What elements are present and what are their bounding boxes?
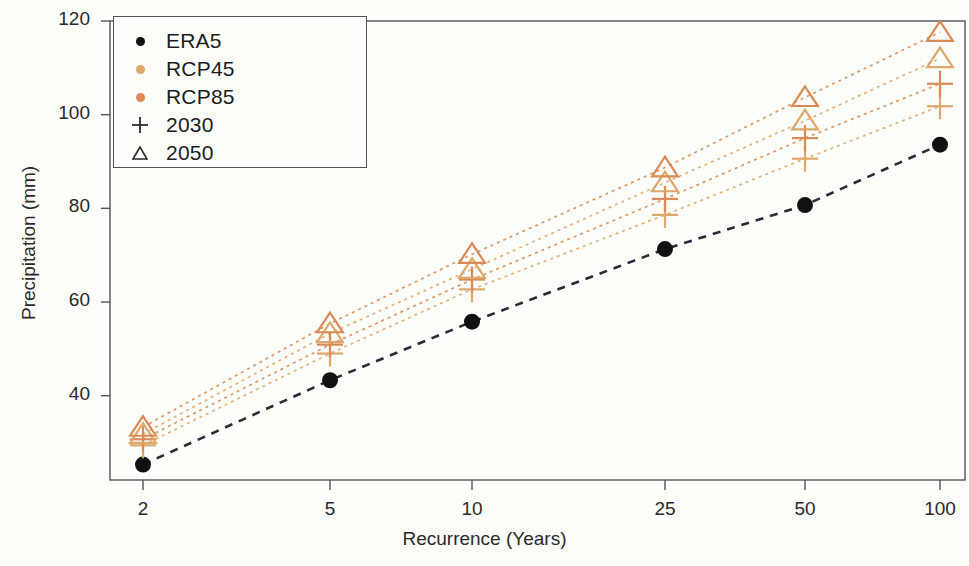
legend-dot-icon (114, 55, 166, 83)
x-tick-label: 50 (775, 498, 835, 520)
data-point-triangle (927, 48, 953, 68)
data-point-plus (927, 93, 953, 119)
legend-label: 2050 (166, 141, 214, 165)
legend-triangle-icon (114, 139, 166, 167)
data-point-triangle (927, 21, 953, 41)
x-tick-label: 100 (910, 498, 969, 520)
data-point-triangle (792, 86, 818, 106)
series-line (143, 145, 940, 465)
legend-label: RCP45 (166, 57, 235, 81)
legend-plus-icon (114, 111, 166, 139)
data-point-dot (135, 457, 151, 473)
legend-item-era5[interactable]: ERA5 (114, 27, 366, 55)
dot-icon (136, 93, 145, 102)
data-point-plus (652, 186, 678, 212)
data-point-dot (932, 137, 948, 153)
y-tick-label: 60 (30, 289, 90, 311)
chart-legend: ERA5RCP45RCP8520302050 (113, 16, 367, 168)
data-point-dot (322, 372, 338, 388)
x-tick-label: 2 (113, 498, 173, 520)
y-tick-label: 40 (30, 383, 90, 405)
legend-label: ERA5 (166, 29, 222, 53)
x-axis-title: Recurrence (Years) (0, 528, 969, 550)
dot-icon (136, 37, 145, 46)
legend-dot-icon (114, 83, 166, 111)
x-tick-label: 10 (442, 498, 502, 520)
data-point-dot (657, 241, 673, 257)
x-tick-label: 25 (635, 498, 695, 520)
legend-item-2050[interactable]: 2050 (114, 139, 366, 167)
y-tick-label: 120 (30, 8, 90, 30)
legend-dot-icon (114, 27, 166, 55)
legend-item-rcp45[interactable]: RCP45 (114, 55, 366, 83)
legend-item-rcp85[interactable]: RCP85 (114, 83, 366, 111)
legend-item-2030[interactable]: 2030 (114, 111, 366, 139)
data-point-plus (927, 71, 953, 97)
legend-label: RCP85 (166, 85, 235, 109)
legend-label: 2030 (166, 113, 214, 137)
y-tick-label: 80 (30, 195, 90, 217)
triangle-icon (130, 143, 150, 163)
y-tick-label: 100 (30, 102, 90, 124)
data-point-dot (464, 314, 480, 330)
x-tick-label: 5 (300, 498, 360, 520)
dot-icon (136, 65, 145, 74)
plus-icon (130, 115, 150, 135)
data-point-dot (797, 197, 813, 213)
chart-figure: Precipitation (mm) Recurrence (Years) 40… (0, 0, 969, 566)
